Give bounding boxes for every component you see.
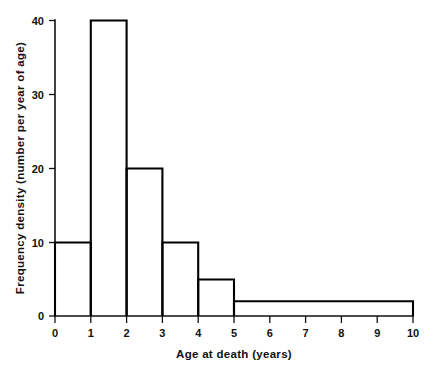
bar-3-4 [162, 243, 198, 317]
bar-0-1 [55, 243, 91, 317]
x-tick-label-3: 3 [159, 327, 165, 339]
bar-4-5 [198, 280, 234, 317]
histogram-svg: 0 10 20 30 40 0 1 2 3 4 5 6 7 [0, 0, 447, 371]
y-axis-title: Frequency density (number per year of ag… [14, 42, 26, 294]
bar-5-10 [234, 301, 413, 316]
x-tick-label-1: 1 [88, 327, 94, 339]
x-tick-label-10: 10 [407, 327, 419, 339]
x-tick-label-6: 6 [267, 327, 273, 339]
bar-2-3 [127, 169, 163, 317]
y-tick-label-0: 0 [38, 310, 44, 322]
x-tick-label-0: 0 [52, 327, 58, 339]
bars-group [55, 21, 413, 317]
x-tick-label-5: 5 [231, 327, 237, 339]
axes-group [55, 20, 413, 316]
y-tick-label-20: 20 [32, 163, 44, 175]
x-axis-title: Age at death (years) [176, 348, 292, 360]
x-tick-label-2: 2 [124, 327, 130, 339]
x-tick-label-8: 8 [338, 327, 344, 339]
bar-1-2 [91, 21, 127, 317]
x-tick-label-9: 9 [374, 327, 380, 339]
x-tick-label-4: 4 [195, 327, 202, 339]
x-tick-label-7: 7 [303, 327, 309, 339]
x-axis-ticks: 0 1 2 3 4 5 6 7 8 9 10 [52, 316, 419, 339]
y-tick-label-30: 30 [32, 89, 44, 101]
histogram-chart: 0 10 20 30 40 0 1 2 3 4 5 6 7 [0, 0, 447, 371]
y-tick-label-40: 40 [32, 15, 44, 27]
y-axis-ticks: 0 10 20 30 40 [32, 15, 55, 323]
y-tick-label-10: 10 [32, 237, 44, 249]
